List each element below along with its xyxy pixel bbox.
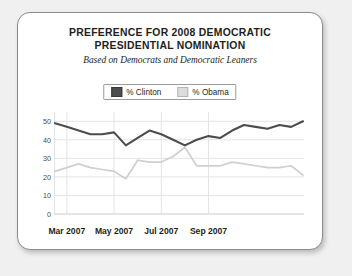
y-axis-tick-label: 50 [29, 117, 51, 126]
chart-legend: % Clinton % Obama [103, 84, 236, 100]
page-title-line-1: PREFERENCE FOR 2008 DEMOCRATIC [18, 27, 322, 40]
color-swatch-icon [177, 87, 188, 97]
series-line [55, 147, 303, 179]
chart-card: PREFERENCE FOR 2008 DEMOCRATIC PRESIDENT… [17, 12, 323, 250]
x-axis-tick-labels: Mar 2007May 2007Jul 2007Sep 2007 [18, 226, 322, 242]
y-axis-tick-label: 20 [29, 172, 51, 181]
gridlines [54, 112, 304, 214]
series-line [55, 121, 303, 145]
chart-plot-area: 01020304050 Mar 2007May 2007Jul 2007Sep … [18, 108, 322, 248]
y-axis-tick-label: 0 [29, 210, 51, 219]
data-series [55, 121, 303, 178]
y-axis-tick-label: 40 [29, 135, 51, 144]
page-title-line-2: PRESIDENTIAL NOMINATION [18, 40, 322, 53]
y-axis-tick-label: 10 [29, 191, 51, 200]
x-axis-tick-label: May 2007 [95, 226, 133, 236]
legend-label-clinton: % Clinton [126, 88, 161, 97]
color-swatch-icon [111, 87, 122, 97]
legend-label-obama: % Obama [192, 88, 228, 97]
y-axis-tick-label: 30 [29, 154, 51, 163]
y-axis-tick-labels: 01020304050 [29, 108, 51, 216]
title-block: PREFERENCE FOR 2008 DEMOCRATIC PRESIDENT… [18, 27, 322, 67]
x-axis-tick-label: Jul 2007 [144, 226, 178, 236]
legend-item-clinton: % Clinton [111, 87, 161, 97]
chart-subtitle: Based on Democrats and Democratic Leaner… [18, 54, 322, 67]
x-axis-tick-label: Mar 2007 [48, 226, 85, 236]
x-axis-tick-label: Sep 2007 [190, 226, 227, 236]
chart-canvas [54, 108, 304, 218]
legend-item-obama: % Obama [177, 87, 228, 97]
